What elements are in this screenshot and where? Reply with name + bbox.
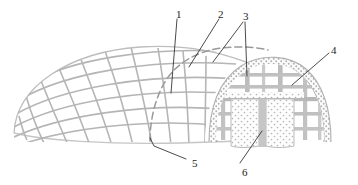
callout-label-5: 5 xyxy=(192,158,198,169)
leader-line-5 xyxy=(150,138,186,159)
callout-label-2: 2 xyxy=(218,9,224,20)
infill-column-right xyxy=(266,99,294,148)
callout-label-3: 3 xyxy=(243,11,249,22)
callout-label-4: 4 xyxy=(331,45,337,56)
dome-cutaway-diagram xyxy=(0,0,358,185)
infill-column-divider xyxy=(259,99,266,147)
figure-root: 1 2 3 4 5 6 xyxy=(0,0,358,185)
section-dotted-course xyxy=(224,92,304,98)
callout-label-6: 6 xyxy=(242,167,248,178)
infill-columns xyxy=(231,99,294,148)
callout-label-1: 1 xyxy=(176,9,182,20)
infill-column-left xyxy=(231,99,259,148)
